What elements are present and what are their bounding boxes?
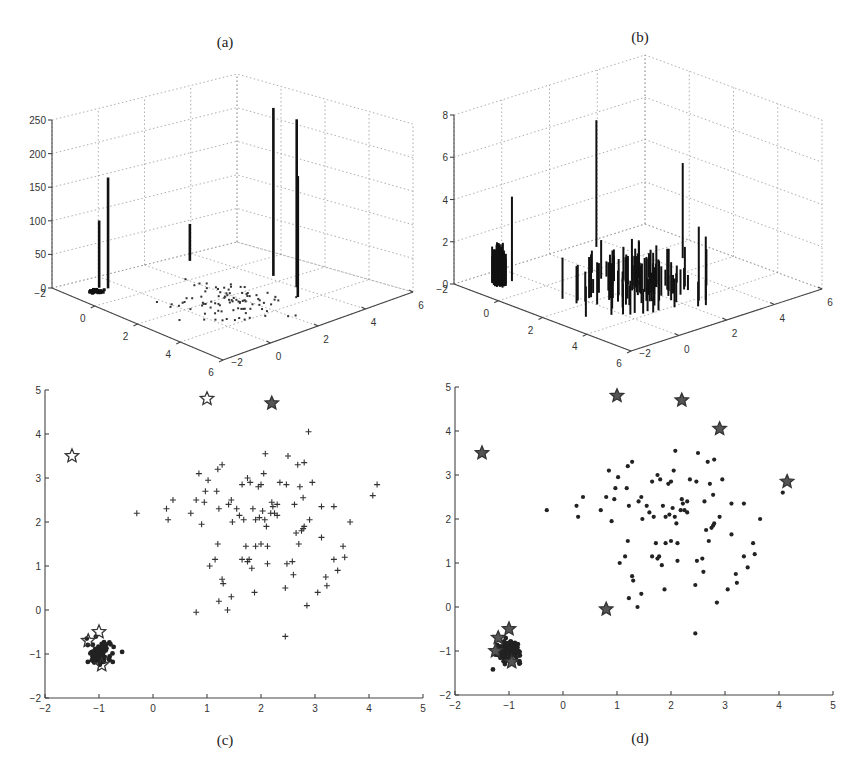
dot-marker (711, 493, 715, 497)
floor-point (261, 308, 263, 310)
plus-marker (335, 567, 341, 573)
plus-marker (264, 561, 270, 567)
plus-marker (239, 482, 245, 488)
dot-marker (675, 559, 679, 563)
star-marker (502, 622, 515, 635)
dot-marker (673, 515, 677, 519)
panel-d-scatter-plot: −2−1012345−2−1012345 (440, 382, 837, 711)
plus-marker (253, 543, 259, 549)
floor-point (221, 310, 223, 312)
x-tick-label: 4 (366, 703, 372, 714)
x-tick-label: 0 (150, 703, 156, 714)
floor-point (277, 299, 279, 301)
dot-marker (672, 469, 676, 473)
plus-marker (374, 482, 380, 488)
grid-line (454, 182, 822, 247)
floor-point (223, 297, 225, 299)
dot-marker (712, 458, 716, 462)
z-tick-label: 200 (29, 149, 46, 160)
dot-marker (664, 541, 668, 545)
floor-point (235, 299, 237, 301)
floor-point (241, 292, 243, 294)
x-tick-label: −1 (503, 700, 515, 711)
cluster-dot (491, 667, 496, 672)
cluster-dot (93, 647, 98, 652)
cluster-dot (91, 651, 96, 656)
dot-marker (645, 504, 649, 508)
floor-point (178, 305, 180, 307)
floor-point (186, 297, 188, 299)
cluster-dot (85, 660, 90, 665)
dot-marker (637, 499, 641, 503)
y-tick-label: 2 (323, 334, 329, 345)
dot-marker (671, 506, 675, 510)
dot-marker (701, 570, 705, 574)
grid-line (52, 175, 413, 225)
floor-point (234, 319, 236, 321)
z-tick-label: 50 (35, 249, 47, 260)
x-tick-label: 2 (668, 700, 674, 711)
plus-marker (291, 501, 297, 507)
z-tick-label: 8 (442, 110, 448, 121)
plus-marker (243, 543, 249, 549)
floor-point (214, 302, 216, 304)
floor-point (214, 319, 216, 321)
panel-label-c: (c) (217, 732, 234, 749)
plus-marker (229, 519, 235, 525)
plus-marker (249, 565, 255, 571)
y-tick-label: 5 (35, 385, 41, 396)
y-tick-label: 0 (276, 351, 282, 362)
floor-point (232, 309, 234, 311)
plus-marker (293, 530, 299, 536)
star-marker (200, 392, 213, 405)
floor-point (246, 295, 248, 297)
plus-marker (282, 585, 288, 591)
star-marker (600, 602, 613, 615)
floor-point (252, 303, 254, 305)
cluster-dot (120, 650, 125, 655)
dot-marker (639, 592, 643, 596)
plus-marker (165, 517, 171, 523)
grid-line (454, 55, 822, 120)
floor-point (230, 286, 232, 288)
floor-point (226, 294, 228, 296)
dot-marker (650, 480, 654, 484)
plus-marker (225, 607, 231, 613)
dot-marker (654, 541, 658, 545)
panel-label-b: (b) (631, 29, 649, 46)
x-tick-label: 0 (483, 308, 489, 319)
figure: (a) (b) (c) (d) 050100150200250−20246−20… (0, 0, 854, 773)
floor-grid (587, 273, 778, 335)
dot-marker (680, 497, 684, 501)
cluster-point (100, 290, 103, 293)
floor-point (233, 297, 235, 299)
y-tick-label: 2 (732, 328, 738, 339)
plus-marker (196, 471, 202, 477)
x-tick (134, 324, 138, 326)
cluster-dot (517, 661, 522, 666)
dot-marker (599, 508, 603, 512)
floor-point (245, 312, 247, 314)
dot-marker (693, 583, 697, 587)
y-tick (675, 334, 679, 336)
plus-marker (300, 495, 306, 501)
y-tick-label: 6 (418, 300, 424, 311)
floor-point (222, 319, 224, 321)
plus-marker (290, 572, 296, 578)
dot-marker (623, 554, 627, 558)
z-tick-label: 6 (442, 152, 448, 163)
plus-marker (347, 519, 353, 525)
dot-marker (693, 631, 697, 635)
x-tick (219, 360, 223, 362)
floor-point (189, 308, 191, 310)
floor-point (210, 301, 212, 303)
floor-point (242, 300, 244, 302)
floor-point (210, 307, 212, 309)
plus-marker (262, 517, 268, 523)
z-tick-label: 250 (29, 115, 46, 126)
cluster-point (92, 289, 95, 292)
dot-marker (627, 504, 631, 508)
grid-line (52, 242, 413, 292)
x-tick-label: −2 (449, 700, 461, 711)
plus-marker (318, 534, 324, 540)
